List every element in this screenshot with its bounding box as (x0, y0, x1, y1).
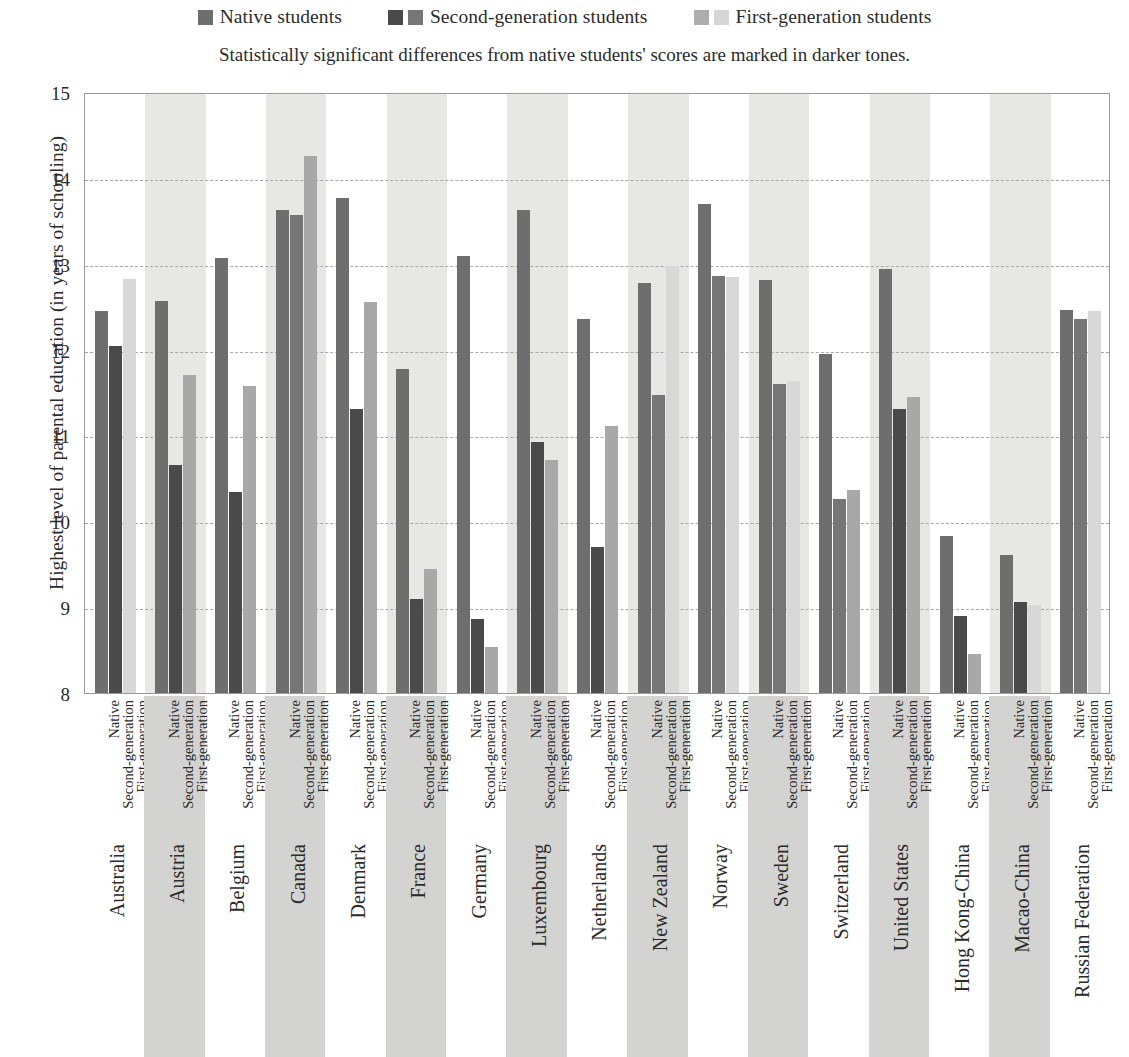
x-series-label: Second-generation (121, 700, 136, 809)
bar[interactable] (1014, 602, 1027, 693)
x-country-label: Belgium (227, 844, 247, 913)
bar[interactable] (698, 204, 711, 693)
y-axis-title: Highest level of parental education (in … (46, 53, 68, 673)
bar[interactable] (726, 277, 739, 693)
bar[interactable] (229, 492, 242, 693)
x-label-group-macao-china: NativeSecond-generationFirst-generationM… (989, 696, 1049, 1057)
bar[interactable] (364, 302, 377, 694)
bar[interactable] (123, 279, 136, 693)
bar[interactable] (545, 460, 558, 693)
bar[interactable] (471, 619, 484, 693)
bar[interactable] (169, 465, 182, 693)
bar[interactable] (109, 346, 122, 693)
x-country-label: Netherlands (589, 844, 609, 941)
bar[interactable] (759, 280, 772, 693)
bar[interactable] (605, 426, 618, 693)
bar-group-norway (689, 94, 749, 693)
x-label-group-sweden: NativeSecond-generationFirst-generationS… (748, 696, 808, 1057)
bar[interactable] (336, 198, 349, 693)
chart-root: Native studentsSecond-generation student… (0, 0, 1129, 1057)
bar-group-switzerland (809, 94, 869, 693)
bar[interactable] (638, 283, 651, 693)
bar-group-united-states (870, 94, 930, 693)
bar[interactable] (1060, 310, 1073, 693)
y-tick-label-10: 10 (24, 513, 70, 532)
legend-item-1[interactable]: Second-generation students (388, 6, 648, 28)
x-label-group-france: NativeSecond-generationFirst-generationF… (386, 696, 446, 1057)
bar[interactable] (424, 569, 437, 693)
x-country-label: Australia (107, 844, 127, 917)
x-country-label: Macao-China (1012, 844, 1032, 953)
x-country-label: Hong Kong-China (952, 844, 972, 992)
x-country-label: Luxembourg (529, 844, 549, 947)
bar[interactable] (410, 599, 423, 693)
x-label-group-russian-federation: NativeSecond-generationFirst-generationR… (1050, 696, 1110, 1057)
bar[interactable] (183, 375, 196, 693)
bar[interactable] (276, 210, 289, 693)
legend-label: First-generation students (736, 6, 932, 28)
y-tick-label-11: 11 (24, 427, 70, 446)
x-label-group-denmark: NativeSecond-generationFirst-generationD… (325, 696, 385, 1057)
bar[interactable] (396, 369, 409, 693)
bar-group-germany (447, 94, 507, 693)
legend-swatch-icon (388, 10, 403, 25)
bar[interactable] (940, 536, 953, 693)
bar[interactable] (833, 499, 846, 693)
legend-swatch-icon (694, 10, 709, 25)
bar-group-belgium (206, 94, 266, 693)
x-label-group-norway: NativeSecond-generationFirst-generationN… (688, 696, 748, 1057)
y-tick-label-12: 12 (24, 341, 70, 360)
bar[interactable] (819, 354, 832, 693)
bar-group-russian-federation (1051, 94, 1110, 693)
bar[interactable] (1000, 555, 1013, 693)
bar[interactable] (517, 210, 530, 693)
x-series-label: Native (771, 700, 786, 739)
x-series-label: First-generation (1100, 700, 1115, 793)
bar[interactable] (954, 616, 967, 693)
bar[interactable] (243, 386, 256, 693)
y-tick-label-8: 8 (24, 685, 70, 704)
bar[interactable] (215, 258, 228, 693)
plot-area (84, 93, 1110, 694)
bar[interactable] (652, 395, 665, 693)
bar[interactable] (350, 409, 363, 693)
bar[interactable] (1088, 311, 1101, 693)
bar[interactable] (847, 490, 860, 693)
bar-group-canada (266, 94, 326, 693)
x-label-group-australia: NativeSecond-generationFirst-generationA… (84, 696, 144, 1057)
bar[interactable] (968, 654, 981, 693)
bar[interactable] (787, 381, 800, 693)
bar[interactable] (666, 266, 679, 693)
bar[interactable] (879, 269, 892, 693)
bar-group-australia (85, 94, 145, 693)
legend-item-2[interactable]: First-generation students (694, 6, 932, 28)
bar[interactable] (457, 256, 470, 693)
y-tick-label-15: 15 (24, 84, 70, 103)
bar-group-sweden (749, 94, 809, 693)
bar[interactable] (95, 311, 108, 693)
bar[interactable] (1028, 605, 1041, 693)
bar-group-macao-china (990, 94, 1050, 693)
x-label-group-hong-kong-china: NativeSecond-generationFirst-generationH… (929, 696, 989, 1057)
x-series-label: Native (107, 700, 122, 739)
bar[interactable] (1074, 319, 1087, 693)
bar[interactable] (155, 301, 168, 693)
legend-item-0[interactable]: Native students (198, 6, 342, 28)
bar[interactable] (773, 384, 786, 693)
x-label-group-netherlands: NativeSecond-generationFirst-generationN… (567, 696, 627, 1057)
y-tick-label-9: 9 (24, 599, 70, 618)
bar[interactable] (591, 547, 604, 693)
legend-swatch-group (388, 10, 423, 25)
legend-swatch-icon (408, 10, 423, 25)
bar[interactable] (907, 397, 920, 693)
x-country-label: Canada (288, 844, 308, 904)
bar[interactable] (577, 319, 590, 693)
x-country-label: Switzerland (831, 844, 851, 940)
bar[interactable] (485, 647, 498, 693)
legend-swatch-group (198, 10, 213, 25)
bar[interactable] (531, 442, 544, 693)
bar[interactable] (893, 409, 906, 693)
bar[interactable] (304, 156, 317, 693)
bar[interactable] (712, 276, 725, 693)
bar[interactable] (290, 215, 303, 693)
